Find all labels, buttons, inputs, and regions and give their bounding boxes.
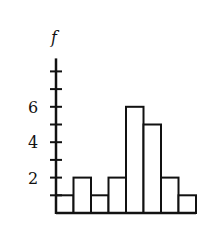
- histogram-bar: [74, 178, 92, 213]
- histogram-bar: [91, 195, 109, 213]
- y-tick-label: 6: [28, 98, 38, 117]
- histogram-bar: [56, 195, 74, 213]
- histogram-bar: [161, 178, 179, 213]
- histogram-bar: [126, 107, 144, 213]
- histogram-bar: [144, 125, 162, 214]
- y-tick-label: 2: [28, 169, 38, 188]
- y-axis-label: f: [50, 28, 60, 47]
- histogram-bars: [56, 107, 196, 213]
- histogram-bar: [179, 195, 197, 213]
- histogram-bar: [109, 178, 127, 213]
- histogram-chart: 246 f: [0, 0, 210, 228]
- y-tick-label: 4: [28, 133, 38, 152]
- y-tick-labels: 246: [28, 98, 38, 188]
